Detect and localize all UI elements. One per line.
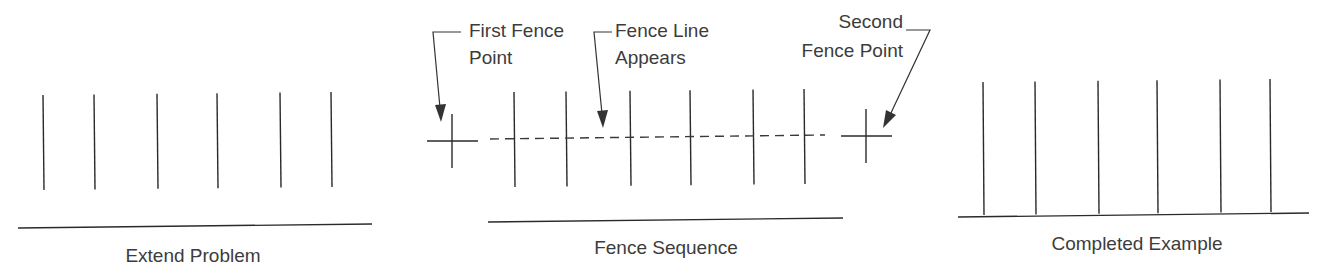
arrow-down-left-icon xyxy=(883,110,896,128)
fence-post xyxy=(217,93,218,188)
fence-post xyxy=(331,92,332,187)
fence-post xyxy=(1098,81,1099,214)
baseline xyxy=(488,218,843,222)
panel-fence-sequence: Fence Sequence First Fence Point Fence L… xyxy=(427,11,930,258)
callout-text-line1: Fence Line xyxy=(615,20,709,41)
fence-post xyxy=(514,92,515,187)
fence-post xyxy=(983,82,984,215)
callout-text-line2: Point xyxy=(469,47,513,68)
leader-line xyxy=(433,32,461,108)
panel-extend-problem: Extend Problem xyxy=(18,92,372,266)
second-fence-point-cross-icon xyxy=(841,109,892,163)
leader-line xyxy=(594,32,612,114)
fence-post xyxy=(1220,80,1221,213)
panel-label: Extend Problem xyxy=(125,245,260,266)
fence-posts xyxy=(43,92,332,190)
fence-post xyxy=(804,89,805,184)
fence-posts xyxy=(983,79,1271,215)
fence-post xyxy=(1035,81,1036,214)
callout-text-line1: First Fence xyxy=(469,20,564,41)
fence-post xyxy=(43,95,44,190)
arrow-down-icon xyxy=(597,110,608,128)
dashed-fence-line xyxy=(490,135,825,139)
fence-post xyxy=(690,90,691,185)
fence-post xyxy=(94,94,95,189)
fence-post xyxy=(630,91,631,186)
panel-completed-example: Completed Example xyxy=(958,79,1309,254)
callout-text-line1: Second xyxy=(839,11,903,32)
fence-post xyxy=(1270,79,1271,212)
baseline xyxy=(958,213,1309,217)
callout-text-line2: Fence Point xyxy=(802,40,904,61)
fence-post xyxy=(280,93,281,188)
fence-post xyxy=(566,91,567,186)
fence-post xyxy=(1157,80,1158,213)
callout-fence-line-appears: Fence Line Appears xyxy=(594,20,709,128)
callout-text-line2: Appears xyxy=(615,47,686,68)
arrow-down-icon xyxy=(435,104,446,122)
fence-post xyxy=(157,94,158,189)
panel-label: Completed Example xyxy=(1051,233,1222,254)
callout-first-fence-point: First Fence Point xyxy=(433,20,564,122)
first-fence-point-cross-icon xyxy=(427,114,478,168)
panel-label: Fence Sequence xyxy=(594,237,738,258)
fence-diagram: Extend Problem Fence Sequence First Fenc… xyxy=(0,0,1328,279)
fence-post xyxy=(753,90,754,185)
baseline xyxy=(18,224,372,228)
